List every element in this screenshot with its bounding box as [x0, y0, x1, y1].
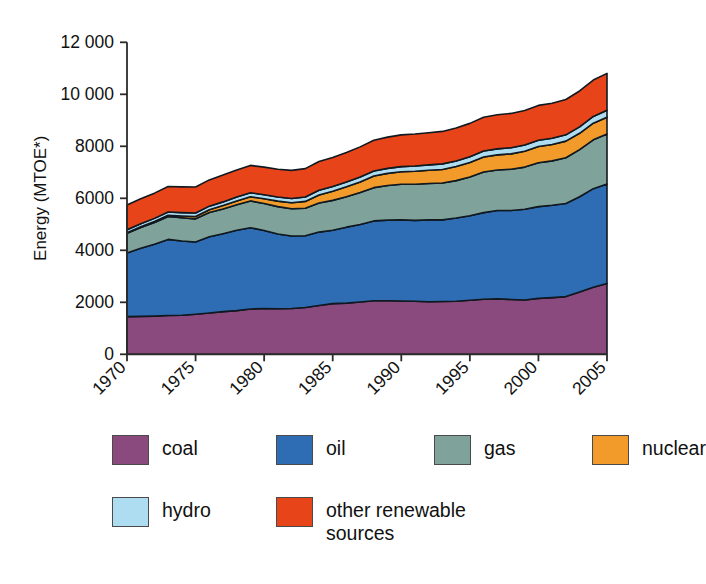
x-tick-label: 1990 — [362, 357, 404, 399]
y-tick-label: 12 000 — [60, 32, 114, 52]
legend-swatch-gas — [434, 435, 471, 465]
x-tick-label-group: 19701975198019851990199520002005 — [88, 357, 610, 399]
y-tick-label: 4000 — [75, 240, 114, 260]
legend-label: oil — [326, 432, 346, 460]
legend-item-oil[interactable]: oil — [276, 432, 346, 488]
x-tick-label: 1970 — [88, 357, 130, 399]
legend-row-secondary: hydroother renewable sources — [112, 494, 668, 550]
x-tick-label: 1985 — [294, 357, 336, 399]
y-tick-label: 10 000 — [60, 84, 114, 104]
legend-item-nuclear[interactable]: nuclear — [592, 432, 706, 488]
legend-item-other[interactable]: other renewable sources — [276, 494, 466, 550]
x-tick-label: 2005 — [568, 357, 610, 399]
legend-label: hydro — [162, 494, 211, 522]
legend-label: nuclear — [642, 432, 706, 460]
legend-swatch-hydro — [112, 497, 149, 527]
area-series-group — [127, 73, 607, 354]
y-tick-label: 2000 — [75, 292, 114, 312]
legend-item-coal[interactable]: coal — [112, 432, 198, 488]
chart-legend: coaloilgasnuclear hydroother renewable s… — [112, 432, 668, 582]
legend-swatch-oil — [276, 435, 313, 465]
y-tick-label-group: 0200040006000800010 00012 000 — [60, 32, 114, 364]
y-tick-label: 6000 — [75, 188, 114, 208]
y-axis-title-group: Energy (MTOE*) — [31, 136, 50, 261]
legend-swatch-nuclear — [592, 435, 629, 465]
legend-label: gas — [484, 432, 515, 460]
legend-row-primary: coaloilgasnuclear — [112, 432, 668, 488]
legend-label: other renewable sources — [326, 494, 466, 545]
legend-item-gas[interactable]: gas — [434, 432, 515, 488]
x-tick-label: 1980 — [225, 357, 267, 399]
legend-label: coal — [162, 432, 198, 460]
x-tick-label: 1975 — [157, 357, 199, 399]
y-axis-title: Energy (MTOE*) — [31, 136, 50, 261]
x-tick-label: 1995 — [431, 357, 473, 399]
x-tick-label: 2000 — [500, 357, 542, 399]
legend-item-hydro[interactable]: hydro — [112, 494, 211, 550]
stacked-area-chart: 0200040006000800010 00012 000 1970197519… — [0, 0, 673, 432]
legend-swatch-coal — [112, 435, 149, 465]
legend-swatch-other-renewable — [276, 497, 313, 527]
y-tick-label: 8000 — [75, 136, 114, 156]
